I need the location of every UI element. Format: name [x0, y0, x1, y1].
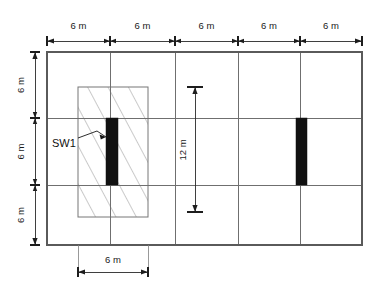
top-dimension-label-2: 6 m — [135, 20, 151, 31]
sw1-label: SW1 — [52, 137, 76, 149]
left-dimension-chain: 6 m 6 m 6 m — [15, 52, 40, 245]
left-dimension-label-2: 6 m — [15, 143, 26, 159]
left-dimension-label-3: 6 m — [15, 207, 26, 223]
top-dimension-label-5: 6 m — [323, 20, 339, 31]
shear-wall-right — [296, 118, 307, 185]
top-dimension-chain: 6 m 6 m 6 m 6 m 6 m — [47, 20, 362, 46]
shear-wall-sw1 — [106, 118, 118, 185]
top-dimension-label-1: 6 m — [71, 20, 87, 31]
interior-vertical-dimension: 12 m — [177, 87, 203, 212]
floor-plan-drawing: 6 m 6 m 6 m 6 m 6 m 6 m 6 m 6 m — [0, 0, 381, 293]
bottom-dimension: 6 m — [78, 245, 148, 277]
left-dimension-label-1: 6 m — [15, 77, 26, 93]
top-dimension-label-4: 6 m — [261, 20, 277, 31]
top-dimension-label-3: 6 m — [199, 20, 215, 31]
interior-dimension-label: 12 m — [177, 139, 188, 160]
drawing-canvas: 6 m 6 m 6 m 6 m 6 m 6 m 6 m 6 m — [0, 0, 381, 293]
bottom-dimension-label: 6 m — [105, 254, 121, 265]
